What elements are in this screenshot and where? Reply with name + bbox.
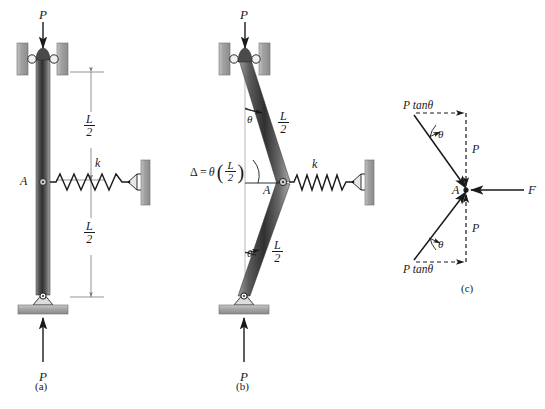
figure-buckling-column: P P A k L2 L2 (a) P P A k θ θ L2 L2 Δ = … (0, 0, 545, 409)
label-theta-upper-b: θ (247, 114, 252, 125)
label-spring-force-c: F (528, 183, 536, 196)
label-theta-upper-c: θ (438, 129, 443, 140)
guide-block-left-b (219, 43, 230, 75)
pin-dot-b (243, 295, 245, 297)
panel-caption-c: (c) (461, 283, 473, 294)
label-bottom-force-c: P tanθ (403, 264, 433, 276)
figure-canvas (0, 0, 545, 409)
label-theta-lower-c: θ (438, 239, 443, 250)
pin-dot-a (42, 295, 44, 297)
joint-a-dot-b (282, 181, 284, 183)
dim-lower-num-a: L (84, 220, 95, 233)
top-force-text-c: P tanθ (403, 99, 433, 111)
roller-left-b (230, 55, 238, 63)
delta-paren-open-b: ( (217, 162, 224, 182)
panel-a (17, 22, 150, 362)
column-head-a (36, 48, 50, 60)
dim-upper-num-a: L (84, 113, 95, 126)
roller-left-a (28, 55, 36, 63)
spring-anchor-dot-b (352, 181, 355, 184)
label-load-top-a: P (39, 8, 47, 21)
dim-upper-den-a: 2 (84, 126, 95, 138)
wall-plate-a (141, 160, 150, 205)
label-delta-expression-b: Δ = θ ( L2 ) (190, 160, 244, 183)
roller-right-b (252, 55, 260, 63)
joint-a-dot-a (42, 181, 44, 183)
label-point-a-a: A (20, 175, 27, 187)
dim-lower-den-a: 2 (84, 233, 95, 245)
roller-right-a (50, 55, 58, 63)
spring-a (50, 174, 128, 190)
dim-lower-den-b: 2 (272, 252, 283, 264)
spring-b (289, 175, 352, 190)
panel-b (219, 22, 374, 362)
label-load-top-b: P (240, 8, 248, 21)
column-head-b (238, 48, 252, 62)
label-axial-lower-c: P (472, 222, 479, 234)
label-dim-lower-a: L2 (84, 220, 95, 245)
guide-block-left-a (17, 43, 28, 75)
label-dim-upper-b: L2 (278, 110, 289, 135)
label-spring-constant-b: k (312, 158, 317, 170)
panel-c (414, 113, 524, 262)
base-plate-b (219, 305, 269, 314)
label-theta-lower-b: θ (247, 248, 252, 259)
label-dim-lower-b: L2 (272, 239, 283, 264)
label-point-a-c: A (452, 184, 459, 196)
label-point-a-b: A (263, 184, 270, 196)
base-plate-a (18, 305, 68, 314)
label-axial-upper-c: P (472, 143, 479, 155)
label-spring-constant-a: k (95, 157, 100, 169)
delta-theta-b: θ (209, 166, 215, 178)
spring-anchor-dot-a (128, 181, 131, 184)
force-vector-upper-c (414, 115, 466, 188)
label-top-force-c: P tanθ (403, 100, 433, 112)
delta-arc-b (253, 160, 259, 183)
dim-upper-den-b: 2 (278, 123, 289, 135)
joint-a-dot-c (463, 187, 468, 192)
wall-plate-b (365, 160, 374, 205)
delta-den-b: 2 (225, 172, 235, 183)
delta-lhs-b: Δ = (190, 166, 207, 178)
dim-lower-num-b: L (272, 239, 283, 252)
label-dim-upper-a: L2 (84, 113, 95, 138)
column-member-a (36, 58, 50, 295)
dim-upper-num-b: L (278, 110, 289, 123)
panel-caption-a: (a) (35, 381, 47, 392)
delta-paren-close-b: ) (238, 162, 245, 182)
panel-caption-b: (b) (236, 381, 249, 392)
bottom-force-text-c: P tanθ (403, 263, 433, 275)
